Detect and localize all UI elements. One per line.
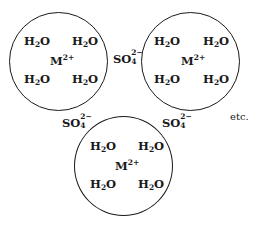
water-molecule: H2O [203,36,229,49]
metal-ion: M2+ [50,54,74,68]
metal-ion: M2+ [181,54,205,68]
water-molecule: H2O [72,74,98,87]
water-molecule: H2O [203,74,229,87]
sulfate-ion-between-top: SO2−4 [113,53,143,66]
water-molecule: H2O [138,179,164,192]
metal-ion: M2+ [115,159,139,173]
sulfate-ion-lower-left: SO2−4 [62,117,92,130]
water-molecule: H2O [24,74,50,87]
sulfate-ion-lower-right: SO2−4 [162,117,192,130]
water-molecule: H2O [72,36,98,49]
water-molecule: H2O [154,74,180,87]
continuation-label: etc. [230,112,249,122]
water-molecule: H2O [24,36,50,49]
water-molecule: H2O [138,141,164,154]
water-molecule: H2O [90,141,116,154]
water-molecule: H2O [154,36,180,49]
water-molecule: H2O [90,179,116,192]
